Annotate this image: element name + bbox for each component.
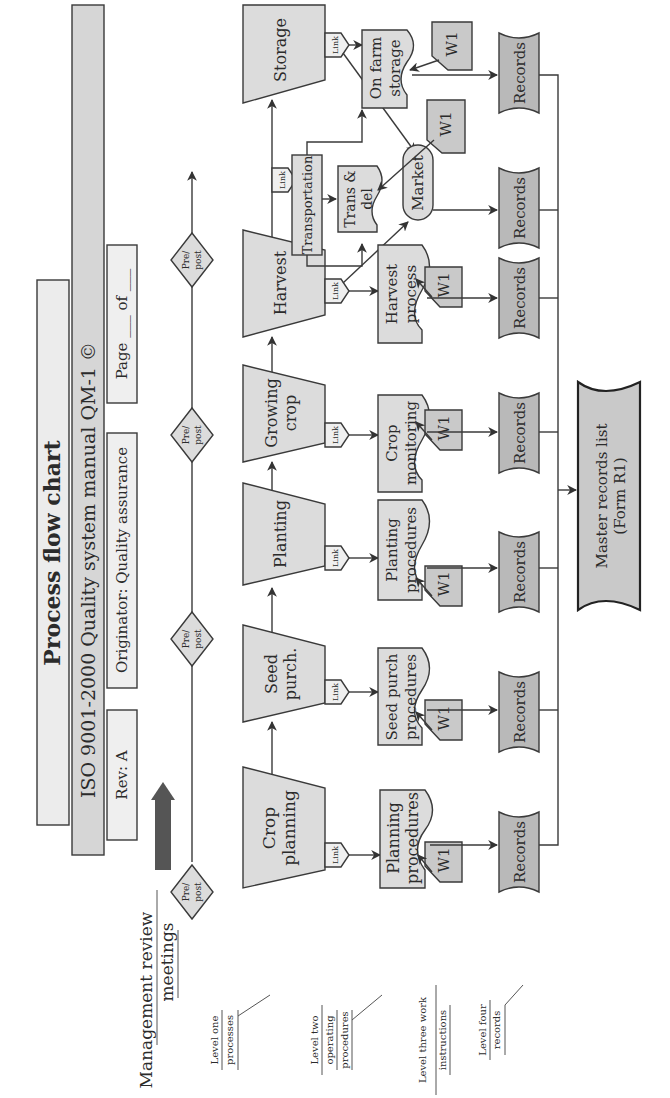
link-tag: Link xyxy=(325,680,349,704)
subtitle: ISO 9001-2000 Quality system manual QM-1… xyxy=(77,342,99,798)
svg-text:Seed purch: Seed purch xyxy=(383,653,401,740)
level-one-label: Level one processes xyxy=(209,995,270,1070)
svg-text:Level one: Level one xyxy=(209,1015,220,1064)
svg-text:W1: W1 xyxy=(435,416,453,441)
svg-text:Master records list: Master records list xyxy=(593,424,611,569)
svg-text:Harvest: Harvest xyxy=(383,264,401,324)
svg-text:crop: crop xyxy=(281,395,300,431)
svg-text:Link: Link xyxy=(331,846,340,864)
svg-text:Crop: Crop xyxy=(383,424,401,461)
header: Process flow chart ISO 9001-2000 Quality… xyxy=(37,5,137,855)
svg-text:Planning: Planning xyxy=(384,802,403,874)
svg-text:Link: Link xyxy=(331,282,340,300)
svg-text:Link: Link xyxy=(331,36,340,54)
svg-text:Records: Records xyxy=(511,42,529,104)
prepost-diamond: Pre/ post xyxy=(171,408,213,462)
direction-arrow-icon xyxy=(151,782,175,870)
svg-text:Records: Records xyxy=(511,402,529,464)
svg-text:Growing: Growing xyxy=(262,378,281,447)
svg-text:Planting: Planting xyxy=(383,518,401,582)
records-bus xyxy=(539,75,576,845)
procedure-on-farm-storage: On farm storage xyxy=(362,30,414,108)
svg-text:Transportation: Transportation xyxy=(300,155,315,254)
link-tag: Link xyxy=(325,843,349,867)
svg-text:Link: Link xyxy=(331,549,340,567)
level-three-label: Level three work instructions xyxy=(417,985,450,1095)
page-title: Process flow chart xyxy=(39,440,65,666)
svg-text:procedures: procedures xyxy=(339,1011,350,1068)
svg-text:Market: Market xyxy=(409,155,427,210)
link-tag: Link xyxy=(325,423,349,447)
level-two-label: Level two operating procedures xyxy=(309,995,382,1075)
process-flow-chart: Process flow chart ISO 9001-2000 Quality… xyxy=(0,0,670,1098)
record-item: Records xyxy=(499,168,539,248)
procedure-crop-monitoring: Crop monitoring xyxy=(378,395,430,492)
svg-text:procedures: procedures xyxy=(403,792,422,884)
svg-text:planning: planning xyxy=(279,790,299,866)
svg-text:Planting: Planting xyxy=(271,500,290,568)
svg-text:instructions: instructions xyxy=(437,1010,448,1070)
svg-text:procedures: procedures xyxy=(402,654,420,740)
svg-text:Seed: Seed xyxy=(262,654,281,694)
svg-text:post: post xyxy=(193,250,203,270)
svg-text:Records: Records xyxy=(511,177,529,239)
svg-text:Link: Link xyxy=(278,171,287,189)
record-item: Records xyxy=(499,812,539,892)
process-storage: Storage xyxy=(243,5,325,103)
svg-text:W1: W1 xyxy=(435,572,453,597)
svg-text:Level four: Level four xyxy=(477,1004,488,1056)
svg-text:Storage: Storage xyxy=(271,18,290,82)
master-records-list: Master records list (Form R1) xyxy=(578,382,640,610)
svg-text:Level three work: Level three work xyxy=(417,996,428,1083)
svg-text:Harvest: Harvest xyxy=(271,250,290,315)
level-four-label: Level four records xyxy=(477,985,523,1060)
svg-text:Pre/: Pre/ xyxy=(181,882,191,902)
rev-label: Rev: A xyxy=(113,750,131,799)
process-seed-purch: Seed purch. xyxy=(243,625,325,722)
procedure-trans-del: Trans & del xyxy=(338,166,382,232)
svg-text:Level two: Level two xyxy=(309,1015,320,1064)
svg-text:del: del xyxy=(359,188,375,210)
svg-text:W1: W1 xyxy=(435,273,453,298)
svg-text:W1: W1 xyxy=(435,848,453,873)
record-item: Records xyxy=(499,393,539,473)
svg-text:Trans &: Trans & xyxy=(342,170,358,228)
process-crop-planning: Crop planning xyxy=(243,767,325,888)
link-tag: Link xyxy=(325,546,349,570)
svg-text:post: post xyxy=(193,882,203,902)
svg-text:storage: storage xyxy=(386,39,404,96)
svg-text:Records: Records xyxy=(511,681,529,743)
svg-text:monitoring: monitoring xyxy=(402,401,420,485)
link-tag: Link xyxy=(325,33,349,57)
prepost-diamond: Pre/ post xyxy=(171,233,213,287)
svg-text:Records: Records xyxy=(511,541,529,603)
svg-text:W1: W1 xyxy=(435,706,453,731)
svg-text:post: post xyxy=(193,629,203,649)
svg-text:post: post xyxy=(193,425,203,445)
svg-text:records: records xyxy=(491,1011,502,1050)
procedure-seed-purch: Seed purch procedures xyxy=(378,648,430,745)
svg-text:Link: Link xyxy=(331,426,340,444)
prepost-diamond: Pre/ post xyxy=(171,865,213,919)
svg-text:W1: W1 xyxy=(437,112,455,137)
svg-text:purch.: purch. xyxy=(281,648,300,701)
process-planting: Planting xyxy=(243,483,325,585)
svg-text:Pre/: Pre/ xyxy=(181,250,191,270)
record-item: Records xyxy=(499,33,539,113)
prepost-diamond: Pre/ post xyxy=(171,612,213,666)
records: Records Records Records Records Records … xyxy=(499,33,539,892)
svg-text:Records: Records xyxy=(511,821,529,883)
page-label: Page ___ of ___ xyxy=(113,268,131,379)
record-item: Records xyxy=(499,258,539,338)
link-tag: Link xyxy=(325,279,349,303)
svg-text:Crop: Crop xyxy=(259,807,279,849)
svg-text:Management review: Management review xyxy=(136,911,156,1088)
svg-text:Records: Records xyxy=(511,267,529,329)
record-item: Records xyxy=(499,672,539,752)
svg-text:process: process xyxy=(402,265,420,323)
svg-text:On farm: On farm xyxy=(367,37,385,100)
originator-label: Originator: Quality assurance xyxy=(113,447,131,673)
procedure-harvest-process: Harvest process xyxy=(378,245,430,343)
svg-text:Pre/: Pre/ xyxy=(181,629,191,649)
svg-text:(Form R1): (Form R1) xyxy=(611,457,629,534)
